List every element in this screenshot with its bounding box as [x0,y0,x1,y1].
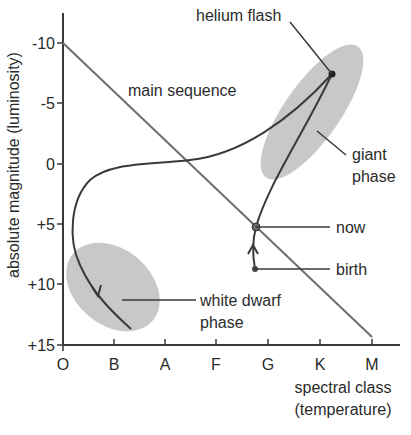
now-label: now [336,219,366,236]
giant-phase-label-line2: phase [352,168,396,185]
helium-flash-label: helium flash [196,7,281,24]
birth-label: birth [336,261,367,278]
x-tick-label: A [160,356,171,373]
x-tick-labels: O B A F G K M [57,356,379,373]
main-sequence-label: main sequence [128,82,237,99]
x-tick-label: B [109,356,120,373]
x-axis-title-line1: spectral class [295,379,392,396]
x-tick-label: F [211,356,221,373]
y-tick-label: -5 [41,95,55,112]
y-tick-label: -10 [32,35,55,52]
x-tick-label: G [262,356,274,373]
y-tick-label: +10 [28,276,55,293]
y-tick-label: +15 [28,337,55,354]
giant-phase-label-line1: giant [352,146,387,163]
white-dwarf-label-line2: phase [200,314,244,331]
white-dwarf-label-line1: white dwarf [199,292,281,309]
y-tick-label: 0 [46,156,55,173]
helium-flash-leader [290,22,332,74]
white-dwarf-region [49,224,178,349]
x-axis-title-line2: (temperature) [295,401,392,418]
x-tick-label: M [365,356,378,373]
y-axis-title: absolute magnitude (luminosity) [5,52,22,278]
y-tick-labels: -10 -5 0 +5 +10 +15 [28,35,55,354]
x-tick-label: K [315,356,326,373]
x-tick-label: O [57,356,69,373]
hr-diagram: -10 -5 0 +5 +10 +15 O B A F G K M absolu… [0,0,411,435]
y-tick-label: +5 [37,216,55,233]
